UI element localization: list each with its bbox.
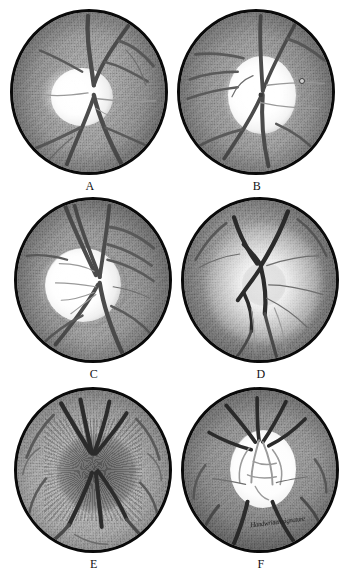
panel-label-a: A [10, 179, 170, 194]
fundus-image-d [181, 197, 339, 363]
panel-label-e: E [14, 557, 174, 570]
panel-d[interactable]: D [181, 197, 341, 365]
fundus-image-c [14, 197, 172, 363]
fundus-image-f: Handwritten signature [181, 387, 339, 553]
fundus-image-b [177, 9, 335, 175]
panel-a[interactable]: A [10, 9, 170, 177]
fundus-image-e [14, 387, 172, 553]
panel-f[interactable]: Handwritten signature F [181, 387, 341, 555]
panel-label-d: D [181, 367, 341, 382]
panel-label-f: F [181, 557, 341, 570]
panel-label-b: B [177, 179, 337, 194]
panel-e[interactable]: E [14, 387, 174, 555]
panel-c[interactable]: C [14, 197, 174, 365]
panel-b[interactable]: B [177, 9, 337, 177]
fundus-plate: A [0, 0, 346, 570]
fundus-image-a [10, 9, 168, 175]
panel-label-c: C [14, 367, 174, 382]
